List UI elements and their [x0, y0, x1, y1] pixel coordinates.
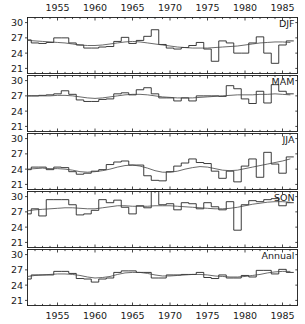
x-tick-label-top-1965: 1965 [120, 2, 144, 13]
y-tick-label-jja-24: 24 [11, 164, 23, 175]
panel-frame-mam [28, 76, 298, 132]
series-smoothed-trend-jja [28, 159, 291, 172]
y-tick-label-son-21: 21 [11, 237, 23, 248]
x-tick-label-bottom-1965: 1965 [120, 310, 144, 321]
y-tick-label-son-24: 24 [11, 222, 23, 233]
y-tick-label-mam-24: 24 [11, 106, 23, 117]
y-tick-label-djf-27: 27 [11, 32, 23, 43]
y-tick-label-djf-24: 24 [11, 48, 23, 59]
panel-label-mam: MAM [272, 76, 295, 87]
chart-canvas: 1955196019651970197519801985195519601965… [0, 0, 305, 324]
y-tick-label-mam-27: 27 [11, 90, 23, 101]
x-tick-label-top-1980: 1980 [233, 2, 257, 13]
y-tick-label-annual-27: 27 [11, 264, 23, 275]
y-tick-label-son-27: 27 [11, 206, 23, 217]
panel-jja: 21242730JJA [11, 133, 298, 190]
panel-annual: 21242730Annual [11, 249, 298, 306]
series-seasonal-anomaly-step-djf [28, 30, 294, 64]
y-tick-label-djf-30: 30 [11, 17, 23, 28]
panel-frame-djf [28, 18, 298, 74]
y-tick-label-jja-30: 30 [11, 133, 23, 144]
panel-label-annual: Annual [261, 250, 294, 261]
x-tick-label-top-1975: 1975 [195, 2, 219, 13]
panel-djf: 21242730DJF [11, 17, 298, 74]
y-tick-label-mam-21: 21 [11, 121, 23, 132]
y-tick-label-annual-24: 24 [11, 280, 23, 291]
x-tick-label-bottom-1955: 1955 [45, 310, 69, 321]
x-tick-label-top-1970: 1970 [158, 2, 182, 13]
panel-mam: 21242730MAM [11, 75, 298, 132]
y-tick-label-mam-30: 30 [11, 75, 23, 86]
panel-son: 21242730SON [11, 191, 298, 248]
y-tick-label-son-30: 30 [11, 191, 23, 202]
y-tick-label-djf-21: 21 [11, 63, 23, 74]
y-tick-label-jja-21: 21 [11, 179, 23, 190]
temperature-timeseries-figure: 1955196019651970197519801985195519601965… [0, 0, 305, 324]
panel-frame-annual [28, 250, 298, 306]
y-tick-label-jja-27: 27 [11, 148, 23, 159]
x-tick-label-bottom-1960: 1960 [83, 310, 107, 321]
x-tick-label-bottom-1970: 1970 [158, 310, 182, 321]
panel-label-djf: DJF [279, 18, 295, 29]
y-tick-label-annual-30: 30 [11, 249, 23, 260]
y-tick-label-annual-21: 21 [11, 295, 23, 306]
series-seasonal-anomaly-step-son [28, 192, 294, 231]
panel-label-son: SON [274, 192, 295, 203]
series-seasonal-anomaly-step-mam [28, 85, 294, 104]
x-tick-label-top-1960: 1960 [83, 2, 107, 13]
x-tick-label-top-1985: 1985 [270, 2, 294, 13]
x-tick-label-top-1955: 1955 [45, 2, 69, 13]
x-tick-label-bottom-1985: 1985 [270, 310, 294, 321]
panel-label-jja: JJA [282, 134, 295, 145]
x-tick-label-bottom-1975: 1975 [195, 310, 219, 321]
x-tick-label-bottom-1980: 1980 [233, 310, 257, 321]
